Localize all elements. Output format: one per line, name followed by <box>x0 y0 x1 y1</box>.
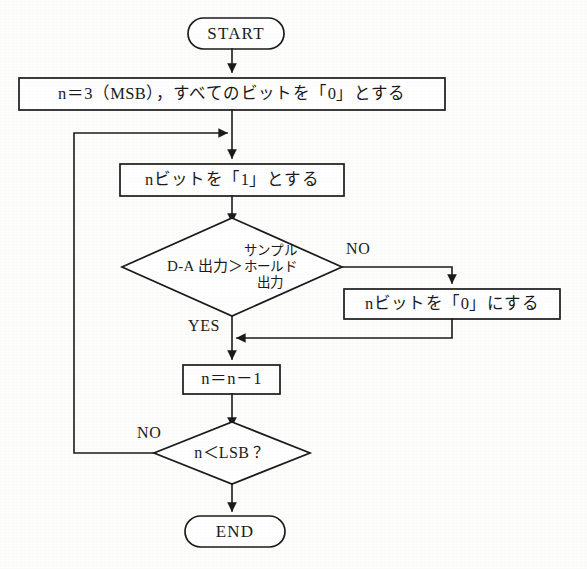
end-terminator-shape <box>185 516 285 547</box>
init-process-shape <box>19 78 445 110</box>
setbitzero-process-shape <box>344 289 560 319</box>
flowchart-canvas: START n＝3（MSB），すべてのビットを「0」とする nビットを「1」とす… <box>0 0 587 569</box>
setbitone-process-shape <box>120 164 344 196</box>
edge-setbitzero-to-merge <box>237 319 452 338</box>
flowchart-graphics <box>0 0 587 569</box>
checklsb-decision-shape <box>154 422 310 484</box>
edge-compare-no-to-setbitzero <box>342 267 452 283</box>
compare-decision-shape <box>122 218 342 316</box>
start-terminator-shape <box>188 18 284 49</box>
decrement-process-shape <box>183 365 280 394</box>
